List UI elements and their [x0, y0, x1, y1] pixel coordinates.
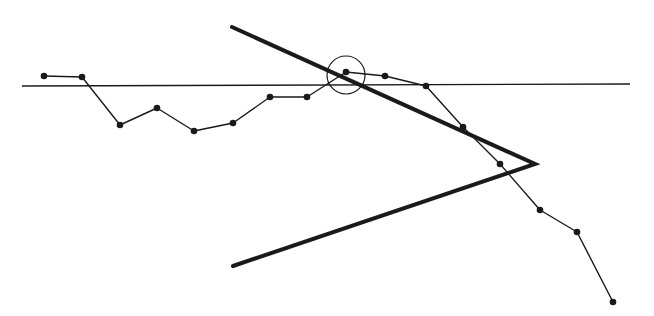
data-point-marker: [267, 94, 274, 101]
chevron-arrow-icon: [232, 27, 535, 266]
data-point-marker: [79, 74, 86, 81]
data-point-marker: [41, 73, 48, 80]
data-point-marker: [117, 122, 124, 129]
data-point-marker: [423, 83, 430, 90]
diagram-canvas: [0, 0, 654, 316]
data-point-marker: [497, 161, 504, 168]
data-point-marker: [191, 128, 198, 135]
data-point-marker: [610, 299, 617, 306]
data-point-marker: [154, 105, 161, 112]
data-series-line: [44, 72, 613, 302]
data-point-marker: [230, 120, 237, 127]
data-point-marker: [537, 207, 544, 214]
data-point-marker: [382, 73, 389, 80]
data-point-marker: [304, 94, 311, 101]
trend-break-diagram: [0, 0, 654, 316]
data-point-marker: [343, 69, 350, 76]
data-point-marker: [574, 229, 581, 236]
data-point-markers: [41, 69, 617, 306]
